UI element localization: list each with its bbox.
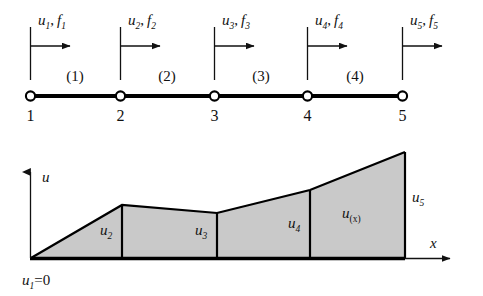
bottom-diagram-group: u x u1=0 u2 u3 u4 u(x) u5	[22, 152, 450, 291]
top-diagram-group: u1,f1 u2,f2 u3,f3 u4,f4 u5,f5 (1) (2) (3…	[26, 12, 442, 124]
y-axis-label: u	[42, 169, 50, 185]
node-number-4: 4	[304, 107, 312, 124]
element-label-1: (1)	[66, 68, 84, 85]
dof-marker-5	[403, 27, 443, 80]
node-number-2: 2	[117, 107, 125, 124]
end-label-u5: u5	[412, 189, 425, 208]
node-circle-4	[303, 91, 312, 100]
figure-root: u1,f1 u2,f2 u3,f3 u4,f4 u5,f5 (1) (2) (3…	[0, 0, 483, 296]
fem-bar-figure: u1,f1 u2,f2 u3,f3 u4,f4 u5,f5 (1) (2) (3…	[0, 0, 483, 296]
node-number-5: 5	[399, 107, 407, 124]
dof-marker-2	[121, 27, 161, 80]
x-axis-label: x	[429, 235, 437, 251]
node-number-1: 1	[27, 107, 35, 124]
dof-label-2: u2,f2	[128, 12, 156, 31]
dof-marker-4	[308, 27, 348, 80]
element-label-4: (4)	[346, 68, 364, 85]
node-circle-3	[210, 91, 219, 100]
dof-marker-1	[31, 27, 71, 80]
dof-label-1: u1,f1	[38, 12, 66, 31]
dof-label-3: u3,f3	[222, 12, 250, 31]
node-circle-2	[116, 91, 125, 100]
dof-label-5: u5,f5	[410, 12, 438, 31]
dof-label-4: u4,f4	[315, 12, 343, 31]
node-number-3: 3	[211, 107, 219, 124]
origin-label: u1=0	[22, 272, 50, 291]
element-label-2: (2)	[158, 68, 176, 85]
dof-marker-3	[215, 27, 255, 80]
node-circle-5	[398, 91, 407, 100]
node-circle-1	[26, 91, 35, 100]
element-label-3: (3)	[252, 68, 270, 85]
